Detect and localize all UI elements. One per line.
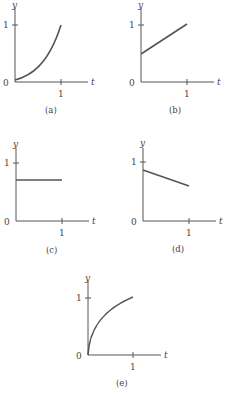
panel-d: y t 1 1 0 (d) [131, 138, 223, 254]
y-label: y [11, 0, 18, 10]
origin-label: 0 [76, 351, 82, 361]
y-tick-label: 1 [131, 157, 137, 167]
t-label: t [164, 350, 168, 360]
t-label: t [219, 216, 223, 226]
panel-a: y t 1 1 0 (a) [3, 0, 95, 115]
origin-label: 0 [129, 78, 135, 88]
figure-canvas: y t 1 1 0 (a) y t 1 1 0 (b) y t 1 1 0 (c… [0, 0, 232, 396]
curve-b [141, 24, 187, 54]
origin-label: 0 [4, 217, 10, 227]
panel-e: y t 1 1 0 (e) [76, 273, 168, 388]
origin-label: 0 [3, 78, 9, 88]
curve-a [15, 25, 61, 80]
y-label: y [137, 0, 144, 10]
origin-label: 0 [131, 217, 137, 227]
t-tick-label: 1 [186, 228, 192, 238]
panel-b: y t 1 1 0 (b) [129, 0, 221, 115]
t-tick-label: 1 [58, 89, 64, 99]
y-tick-label: 1 [4, 158, 10, 168]
curve-e [88, 297, 133, 355]
t-tick-label: 1 [130, 362, 136, 372]
caption-d: (d) [172, 244, 184, 254]
t-label: t [92, 216, 96, 226]
y-tick-label: 1 [76, 293, 82, 303]
y-label: y [84, 273, 91, 283]
caption-a: (a) [45, 105, 57, 115]
curve-d [143, 170, 189, 186]
caption-b: (b) [169, 105, 181, 115]
y-tick-label: 1 [3, 20, 9, 30]
panel-c: y t 1 1 0 (c) [4, 139, 96, 255]
t-tick-label: 1 [184, 89, 190, 99]
t-tick-label: 1 [59, 228, 65, 238]
caption-e: (e) [116, 378, 128, 388]
t-label: t [217, 77, 221, 87]
caption-c: (c) [46, 245, 57, 255]
y-label: y [12, 139, 19, 149]
y-label: y [139, 138, 146, 148]
y-tick-label: 1 [129, 20, 135, 30]
t-label: t [91, 77, 95, 87]
